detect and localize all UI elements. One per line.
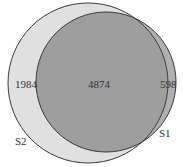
s2-only-count: 1984 bbox=[15, 78, 38, 90]
s2-set-label: S2 bbox=[15, 135, 27, 147]
s1-only-count: 598 bbox=[160, 78, 177, 90]
venn-diagram: 1984 4874 598 S2 S1 bbox=[0, 0, 183, 167]
intersection-count: 4874 bbox=[88, 78, 111, 90]
s1-set-label: S1 bbox=[159, 127, 171, 139]
